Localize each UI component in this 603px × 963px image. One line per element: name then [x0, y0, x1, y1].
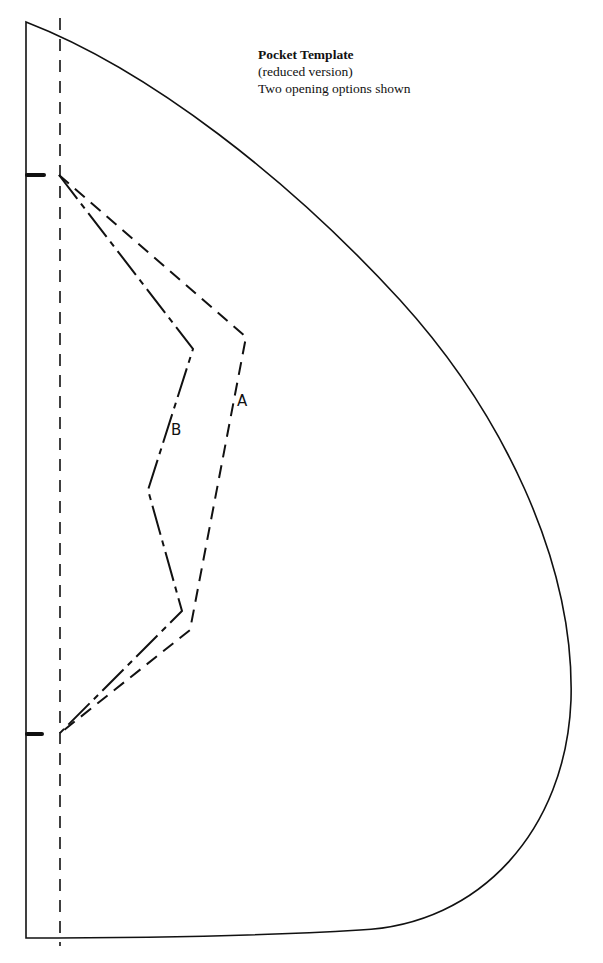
- option-a-label: A: [237, 392, 248, 410]
- caption-title: Pocket Template: [258, 46, 410, 63]
- pocket-outline: [26, 22, 571, 938]
- caption-subtitle: (reduced version): [258, 63, 410, 80]
- caption-note: Two opening options shown: [258, 80, 410, 97]
- pocket-template-drawing: A B: [0, 0, 603, 963]
- template-caption: Pocket Template (reduced version) Two op…: [258, 46, 410, 97]
- option-b-label: B: [171, 421, 181, 439]
- opening-option-b: [59, 175, 193, 734]
- opening-option-a: [59, 175, 246, 734]
